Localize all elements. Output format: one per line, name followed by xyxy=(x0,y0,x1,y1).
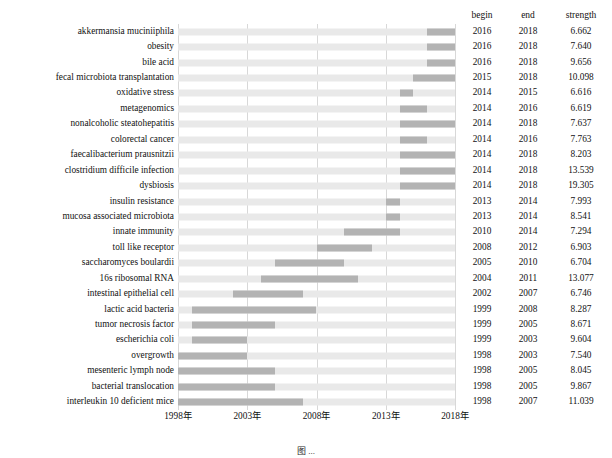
burst-period-bar xyxy=(192,306,317,313)
cell-begin: 2014 xyxy=(460,89,504,98)
timeline-track xyxy=(178,70,455,85)
cell-begin: 2016 xyxy=(460,58,504,67)
cell-end: 2005 xyxy=(508,382,548,391)
cell-end: 2018 xyxy=(508,120,548,129)
burst-period-bar xyxy=(178,352,247,359)
keyword-label: lactic acid bacteria xyxy=(104,305,174,314)
burst-row: insulin resistance201320147.993 xyxy=(0,194,612,209)
cell-strength: 9.656 xyxy=(552,58,610,67)
keyword-label: fecal microbiota transplantation xyxy=(56,73,174,82)
cell-begin: 1998 xyxy=(460,351,504,360)
burst-period-bar xyxy=(178,399,303,406)
burst-row: oxidative stress201420156.616 xyxy=(0,86,612,101)
cell-strength: 7.294 xyxy=(552,228,610,237)
timeline-track xyxy=(178,395,455,410)
burst-period-bar xyxy=(427,44,455,51)
timeline-track xyxy=(178,101,455,116)
timeline-track xyxy=(178,379,455,394)
cell-begin: 2008 xyxy=(460,243,504,252)
keyword-label: mucosa associated microbiota xyxy=(62,212,174,221)
cell-strength: 8.287 xyxy=(552,305,610,314)
timeline-track xyxy=(178,240,455,255)
timeline-base-bar xyxy=(178,198,455,205)
cell-end: 2014 xyxy=(508,228,548,237)
timeline-track xyxy=(178,333,455,348)
cell-end: 2018 xyxy=(508,181,548,190)
burst-row: nonalcoholic steatohepatitis201420187.63… xyxy=(0,117,612,132)
cell-begin: 2013 xyxy=(460,212,504,221)
cell-strength: 6.746 xyxy=(552,290,610,299)
burst-period-bar xyxy=(400,183,455,190)
burst-row: colorectal cancer201420167.763 xyxy=(0,132,612,147)
timeline-track xyxy=(178,178,455,193)
cell-strength: 6.704 xyxy=(552,259,610,268)
keyword-label: bacterial translocation xyxy=(92,382,174,391)
cell-strength: 7.637 xyxy=(552,120,610,129)
cell-end: 2018 xyxy=(508,27,548,36)
keyword-label: escherichia coli xyxy=(116,336,174,345)
cell-end: 2007 xyxy=(508,290,548,299)
cell-strength: 7.540 xyxy=(552,351,610,360)
timeline-track xyxy=(178,225,455,240)
burst-detection-chart: begin end strength akkermansia muciniiph… xyxy=(0,0,612,458)
burst-row: clostridium difficile infection201420181… xyxy=(0,163,612,178)
cell-end: 2008 xyxy=(508,305,548,314)
burst-row: lactic acid bacteria199920088.287 xyxy=(0,302,612,317)
cell-begin: 1999 xyxy=(460,336,504,345)
keyword-label: mesenteric lymph node xyxy=(87,367,174,376)
cell-end: 2003 xyxy=(508,336,548,345)
cell-strength: 9.604 xyxy=(552,336,610,345)
cell-begin: 2016 xyxy=(460,27,504,36)
burst-period-bar xyxy=(275,260,344,267)
timeline-base-bar xyxy=(178,229,455,236)
cell-end: 2018 xyxy=(508,166,548,175)
timeline-track xyxy=(178,271,455,286)
cell-strength: 9.867 xyxy=(552,382,610,391)
burst-row: mucosa associated microbiota201320148.54… xyxy=(0,209,612,224)
keyword-label: clostridium difficile infection xyxy=(65,166,174,175)
timeline-track xyxy=(178,39,455,54)
cell-end: 2018 xyxy=(508,73,548,82)
timeline-track xyxy=(178,55,455,70)
cell-begin: 1998 xyxy=(460,382,504,391)
cell-begin: 2005 xyxy=(460,259,504,268)
cell-begin: 2014 xyxy=(460,181,504,190)
x-axis-tick: 2008年 xyxy=(303,412,331,421)
cell-strength: 6.903 xyxy=(552,243,610,252)
cell-strength: 13.539 xyxy=(552,166,610,175)
cell-end: 2016 xyxy=(508,135,548,144)
keyword-label: overgrowth xyxy=(131,351,174,360)
column-header-begin: begin xyxy=(460,10,504,20)
burst-period-bar xyxy=(178,383,275,390)
burst-row: bacterial translocation199820059.867 xyxy=(0,379,612,394)
timeline-track xyxy=(178,24,455,39)
timeline-track xyxy=(178,348,455,363)
cell-end: 2018 xyxy=(508,151,548,160)
burst-period-bar xyxy=(317,244,372,251)
cell-strength: 19.305 xyxy=(552,181,610,190)
cell-begin: 1998 xyxy=(460,398,504,407)
keyword-label: akkermansia muciniiphila xyxy=(78,27,174,36)
timeline-track xyxy=(178,256,455,271)
cell-begin: 2004 xyxy=(460,274,504,283)
burst-period-bar xyxy=(233,291,302,298)
keyword-label: obesity xyxy=(147,43,174,52)
keyword-label: 16s ribosomal RNA xyxy=(100,274,174,283)
burst-row: escherichia coli199920039.604 xyxy=(0,333,612,348)
burst-period-bar xyxy=(427,28,455,35)
burst-period-bar xyxy=(413,75,455,82)
x-axis: 1998年2003年2008年2013年2018年 xyxy=(178,412,455,428)
burst-period-bar xyxy=(400,121,455,128)
column-header-strength: strength xyxy=(552,10,610,20)
cell-strength: 7.640 xyxy=(552,43,610,52)
cell-begin: 2010 xyxy=(460,228,504,237)
cell-end: 2014 xyxy=(508,197,548,206)
cell-begin: 2014 xyxy=(460,120,504,129)
keyword-label: nonalcoholic steatohepatitis xyxy=(70,120,174,129)
figure-caption: 图 ... xyxy=(0,444,612,458)
timeline-track xyxy=(178,163,455,178)
burst-period-bar xyxy=(192,322,275,329)
x-axis-tick: 2003年 xyxy=(233,412,261,421)
burst-period-bar xyxy=(400,152,455,159)
cell-end: 2010 xyxy=(508,259,548,268)
